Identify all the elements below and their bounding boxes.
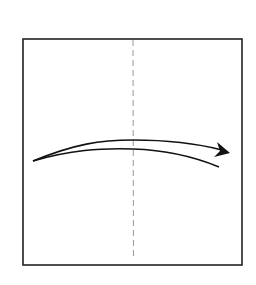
diagram-svg xyxy=(0,0,256,285)
origami-diagram xyxy=(0,0,256,285)
